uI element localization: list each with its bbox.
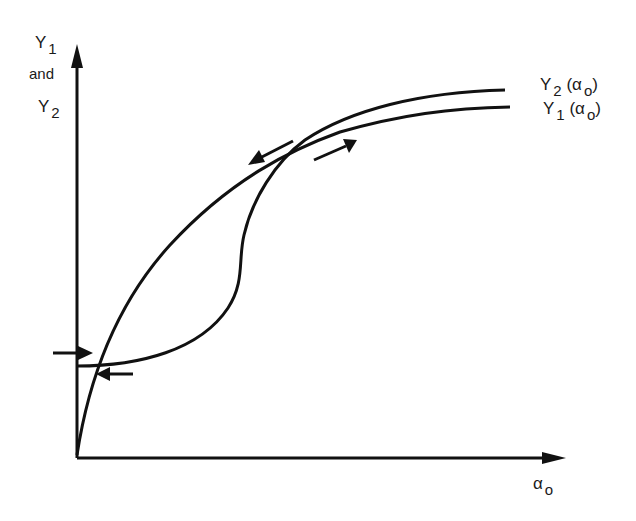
curve-y2: [77, 90, 505, 366]
y-axis-arrowhead-icon: [71, 44, 83, 68]
y-axis-label-y1: Y1: [35, 34, 57, 56]
lower-left-arrow-icon: [53, 346, 93, 360]
upper-right-arrow-icon: [314, 139, 357, 160]
curve-label-y1: Y1 (αo): [543, 100, 601, 122]
y-axis-label-and: and: [29, 66, 54, 81]
y-axis-label-y2: Y2: [38, 98, 60, 120]
x-axis-label: αo: [533, 475, 553, 497]
curve-y1: [77, 107, 510, 455]
upper-left-arrow-icon: [248, 141, 293, 165]
y-axis: [71, 44, 83, 458]
x-axis: [77, 452, 566, 464]
x-axis-arrowhead-icon: [542, 452, 566, 464]
curve-label-y2: Y2 (αo): [540, 76, 598, 98]
lower-right-arrow-icon: [96, 367, 133, 381]
